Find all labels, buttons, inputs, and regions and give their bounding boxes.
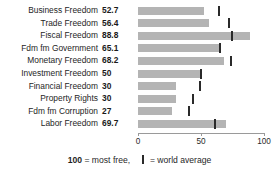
value-bar — [138, 70, 201, 78]
value-label: 27 — [102, 106, 132, 117]
category-label: Fiscal Freedom — [0, 30, 98, 41]
value-bar — [138, 7, 204, 15]
value-bar — [138, 44, 220, 52]
world-average-marker — [218, 6, 220, 16]
axis-tick-label: 50 — [196, 137, 205, 147]
bar-track — [138, 5, 279, 16]
value-label: 68.2 — [102, 55, 132, 66]
legend-most-free-value: 100 — [68, 155, 82, 165]
category-label: Business Freedom — [0, 5, 98, 16]
legend-most-free-text: = most free, — [84, 155, 130, 165]
world-average-marker — [199, 81, 201, 91]
bar-track — [138, 43, 279, 54]
world-average-marker — [219, 43, 221, 53]
legend-world-average-text: = world average — [150, 155, 211, 165]
category-label: Trade Freedom — [0, 18, 98, 29]
chart-row: Labor Freedom69.7 — [0, 118, 279, 129]
category-label: Property Rights — [0, 93, 98, 104]
world-average-marker-icon — [142, 155, 144, 164]
chart-row: Fdm fm Corruption27 — [0, 106, 279, 117]
world-average-marker — [214, 119, 216, 129]
chart-row: Financial Freedom30 — [0, 81, 279, 92]
category-label: Labor Freedom — [0, 118, 98, 129]
value-label: 30 — [102, 93, 132, 104]
value-bar — [138, 57, 224, 65]
value-label: 30 — [102, 81, 132, 92]
world-average-marker — [188, 106, 190, 116]
world-average-marker — [228, 18, 230, 28]
value-bar — [138, 19, 209, 27]
chart-row: Fiscal Freedom88.8 — [0, 30, 279, 41]
value-label: 65.1 — [102, 43, 132, 54]
bar-track — [138, 55, 279, 66]
value-bar — [138, 82, 176, 90]
chart-row: Property Rights30 — [0, 93, 279, 104]
axis-tick-label: 100 — [257, 137, 271, 147]
category-label: Investment Freedom — [0, 68, 98, 79]
world-average-marker — [231, 31, 233, 41]
chart-row: Monetary Freedom68.2 — [0, 55, 279, 66]
chart-row: Fdm fm Government65.1 — [0, 43, 279, 54]
value-label: 56.4 — [102, 18, 132, 29]
bar-track — [138, 68, 279, 79]
value-label: 69.7 — [102, 118, 132, 129]
bar-track — [138, 118, 279, 129]
category-label: Fdm fm Government — [0, 43, 98, 54]
axis-tick-mark — [138, 133, 139, 136]
axis-tick-label: 0 — [136, 137, 141, 147]
world-average-marker — [192, 94, 194, 104]
value-bar — [138, 95, 176, 103]
chart-row: Trade Freedom56.4 — [0, 18, 279, 29]
economic-freedom-bar-chart: Business Freedom52.7Trade Freedom56.4Fis… — [0, 0, 279, 172]
value-bar — [138, 107, 172, 115]
axis-tick-mark — [201, 133, 202, 136]
bar-track — [138, 106, 279, 117]
bar-track — [138, 81, 279, 92]
world-average-marker — [200, 69, 202, 79]
bar-track — [138, 30, 279, 41]
chart-row: Investment Freedom50 — [0, 68, 279, 79]
value-label: 52.7 — [102, 5, 132, 16]
axis-tick-mark — [264, 133, 265, 136]
value-label: 50 — [102, 68, 132, 79]
value-label: 88.8 — [102, 30, 132, 41]
category-label: Financial Freedom — [0, 81, 98, 92]
bar-track — [138, 18, 279, 29]
chart-legend: 100 = most free, = world average — [0, 152, 279, 168]
world-average-marker — [230, 56, 232, 66]
value-bar — [138, 120, 226, 128]
category-label: Monetary Freedom — [0, 55, 98, 66]
bar-track — [138, 93, 279, 104]
chart-row: Business Freedom52.7 — [0, 5, 279, 16]
category-label: Fdm fm Corruption — [0, 106, 98, 117]
